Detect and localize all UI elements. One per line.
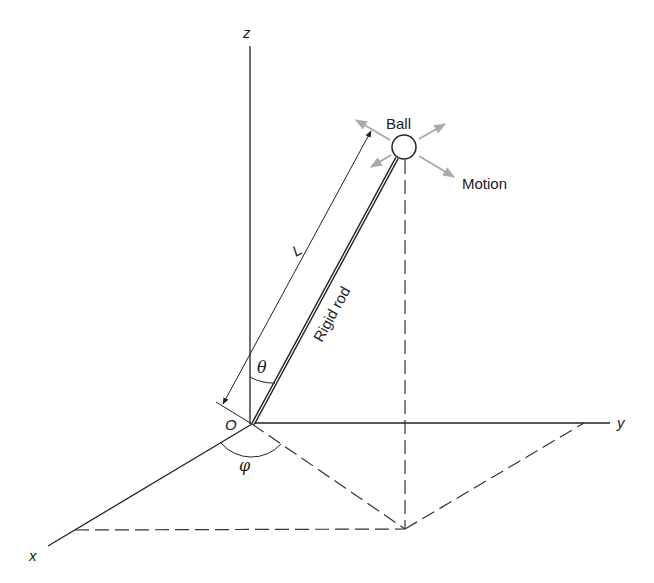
origin-label: O [225,416,237,433]
ball-label: Ball [386,115,411,132]
theta-arc [250,377,275,383]
length-label: L [289,241,305,260]
x-parallel-line [405,423,584,529]
motion-arrow-down-right [419,156,454,177]
rod-projection-line [252,424,405,529]
motion-arrow-up-right [419,124,445,139]
rigid-rod-label: Rigid rod [310,284,354,345]
ball [392,135,416,159]
motion-arrow-up-left [356,120,390,140]
y-parallel-line [75,529,405,530]
length-dimension-arrow [223,131,371,404]
y-axis-label: y [616,414,626,431]
x-axis [48,424,252,546]
rigid-rod-inner [253,158,397,424]
x-axis-label: x [28,547,37,564]
motion-label: Motion [462,175,507,192]
pendulum-diagram: z y x O Ball Motion Rigid rod L θ φ [0,0,654,583]
z-axis-label: z [242,24,251,41]
phi-label: φ [239,456,251,475]
theta-label: θ [257,358,267,377]
phi-arc [221,443,281,457]
motion-arrow-down-left [371,155,391,167]
